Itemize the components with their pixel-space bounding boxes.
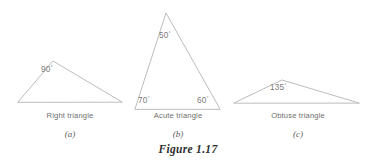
angle-label-90: 90° <box>41 64 53 74</box>
sublabel-a: (a) <box>65 129 76 139</box>
panel-acute-triangle: 50° 70° 60° Acute triangle (b) <box>135 13 220 139</box>
angle-label-50: 50° <box>159 30 171 40</box>
angle-label-135: 135° <box>270 82 287 92</box>
angle-label-60: 60° <box>197 95 209 105</box>
triangles-figure: 90° Right triangle (a) 50° 70° 60° Acute… <box>0 0 375 163</box>
caption-obtuse-triangle: Obtuse triangle <box>271 111 325 120</box>
panel-obtuse-triangle: 135° Obtuse triangle (c) <box>234 80 359 139</box>
angle-label-70: 70° <box>138 95 150 105</box>
sublabel-b: (b) <box>173 129 184 139</box>
right-triangle-shape <box>18 61 122 102</box>
caption-right-triangle: Right triangle <box>47 111 94 120</box>
sublabel-c: (c) <box>293 129 303 139</box>
figure-container: 90° Right triangle (a) 50° 70° 60° Acute… <box>0 0 375 163</box>
panel-right-triangle: 90° Right triangle (a) <box>18 61 122 139</box>
figure-title: Figure 1.17 <box>158 143 219 156</box>
obtuse-triangle-shape <box>234 80 359 103</box>
caption-acute-triangle: Acute triangle <box>154 111 203 120</box>
